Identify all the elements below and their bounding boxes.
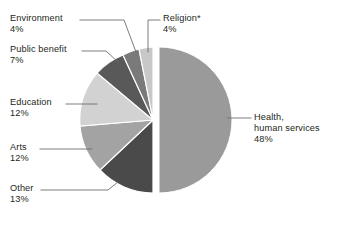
pie-label-other[interactable]: Other 13% bbox=[10, 183, 33, 205]
pie-label-public-benefit-name: Public benefit bbox=[10, 44, 67, 54]
leader-line-other bbox=[41, 182, 118, 190]
leader-line-environment bbox=[80, 20, 136, 52]
pie-label-health-name-line1: Health, bbox=[254, 112, 284, 122]
pie-label-public-benefit-value: 7% bbox=[10, 55, 67, 66]
pie-label-environment-value: 4% bbox=[10, 24, 63, 35]
pie-label-other-value: 13% bbox=[10, 194, 33, 205]
pie-label-arts-value: 12% bbox=[10, 153, 29, 164]
pie-label-religion-name: Religion* bbox=[163, 13, 201, 23]
pie-label-education-name: Education bbox=[10, 97, 52, 107]
pie-chart: Environment 4% Public benefit 7% Educati… bbox=[0, 0, 346, 225]
pie-label-health-name-line2: human services bbox=[254, 123, 320, 134]
pie-label-environment-name: Environment bbox=[10, 13, 63, 23]
pie-label-public-benefit[interactable]: Public benefit 7% bbox=[10, 44, 67, 66]
pie-label-arts-name: Arts bbox=[10, 142, 27, 152]
pie-slice-health[interactable] bbox=[159, 47, 232, 193]
pie-label-other-name: Other bbox=[10, 183, 33, 193]
pie-label-religion-value: 4% bbox=[163, 24, 201, 35]
pie-label-health[interactable]: Health, human services 48% bbox=[254, 112, 320, 146]
pie-label-education-value: 12% bbox=[10, 108, 52, 119]
pie-label-environment[interactable]: Environment 4% bbox=[10, 13, 63, 35]
pie-label-arts[interactable]: Arts 12% bbox=[10, 142, 29, 164]
pie-label-education[interactable]: Education 12% bbox=[10, 97, 52, 119]
pie-label-religion[interactable]: Religion* 4% bbox=[163, 13, 201, 35]
pie-label-health-value: 48% bbox=[254, 134, 320, 145]
